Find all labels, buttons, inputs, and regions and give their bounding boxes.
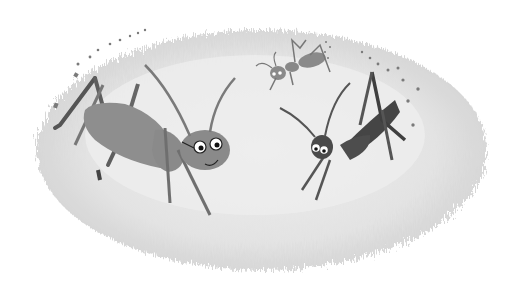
ground-oval: [37, 30, 487, 270]
illustration: [0, 0, 524, 294]
